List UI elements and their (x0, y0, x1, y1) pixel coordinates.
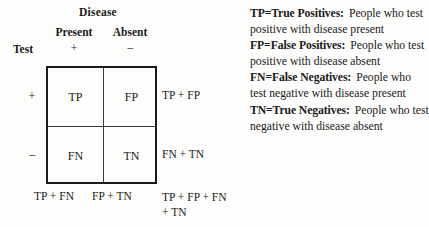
column-total-absent: FP + TN (92, 190, 132, 202)
cell-false-positive: FP (104, 68, 159, 126)
legend-item-false-positive: FP=False Positives:People who test posit… (250, 38, 429, 70)
legend-term-fn: FN=False Negatives: (250, 71, 351, 84)
column-header-absent-sign: − (102, 42, 158, 57)
cell-false-negative: FN (48, 127, 103, 185)
legend-item-true-negative: TN=True Negatives:People who test negati… (250, 103, 429, 135)
row-header-positive: + (22, 89, 42, 104)
column-group-header: Disease (0, 6, 196, 18)
row-group-header: Test (13, 43, 33, 55)
row-total-negative: FN + TN (162, 148, 204, 160)
column-header-present-sign: + (46, 42, 102, 54)
row-header-negative: − (22, 148, 42, 164)
cell-true-positive: TP (48, 68, 103, 126)
legend-term-fp: FP=False Positives: (250, 39, 345, 52)
column-total-present: TP + FN (34, 190, 74, 202)
column-header-absent: Absent (102, 26, 158, 38)
column-header-present: Present (46, 26, 102, 38)
confusion-matrix-figure: Disease Present Absent + − Test + − TP F… (0, 0, 429, 227)
row-total-positive: TP + FP (162, 89, 200, 101)
legend-term-tp: TP=True Positives: (250, 7, 344, 20)
definitions-legend: TP=True Positives:People who test positi… (250, 6, 429, 135)
matrix-grid: TP FP FN TN (46, 66, 157, 184)
grand-total: TP + FP + FN + TN (162, 190, 232, 220)
cell-true-negative: TN (104, 127, 159, 185)
legend-item-false-negative: FN=False Negatives:People who test negat… (250, 70, 429, 102)
legend-item-true-positive: TP=True Positives:People who test positi… (250, 6, 429, 38)
legend-term-tn: TN=True Negatives: (250, 104, 350, 117)
